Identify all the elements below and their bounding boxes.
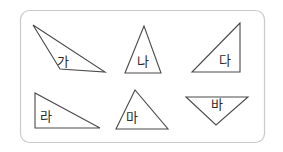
triangle-ga-label: 가: [57, 54, 69, 69]
triangle-ma-label: 마: [126, 110, 138, 125]
triangle-ba-label: 바: [211, 97, 223, 112]
triangle-na-label: 나: [137, 54, 149, 69]
triangle-da-label: 다: [219, 53, 231, 68]
triangles-figure: 가나다라마바: [0, 0, 283, 152]
triangle-ra-label: 라: [40, 109, 52, 124]
worksheet-canvas: 가나다라마바: [0, 0, 283, 152]
